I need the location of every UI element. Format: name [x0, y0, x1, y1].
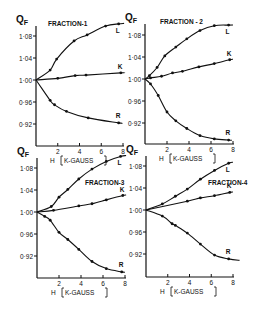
data-point	[49, 219, 52, 222]
data-point	[166, 111, 169, 114]
data-point	[85, 74, 88, 77]
y-tick-label: 1·04	[20, 187, 33, 194]
y-axis-label: QF	[126, 144, 139, 156]
data-point	[91, 168, 94, 171]
x-tick-label: 4	[187, 146, 191, 153]
data-point	[186, 200, 189, 203]
series-line	[36, 80, 122, 123]
data-point	[213, 194, 216, 197]
y-tick-label: 1·08	[129, 163, 142, 170]
x-tick-label: 2	[57, 280, 61, 287]
panel-title: FRACTION - 2	[160, 18, 203, 25]
data-point	[58, 196, 61, 199]
data-point	[55, 58, 58, 61]
y-tick-label: 1·04	[128, 54, 141, 61]
y-axis-label: QF	[16, 14, 29, 26]
data-point	[227, 24, 230, 27]
series-label: R	[116, 112, 121, 119]
y-axis-label: QF	[17, 146, 30, 158]
data-point	[66, 238, 69, 241]
series-label: K	[120, 186, 125, 193]
bracket-right	[214, 287, 216, 296]
series-line	[146, 192, 233, 210]
data-point	[149, 77, 152, 80]
x-axis-label-h: H	[50, 157, 55, 164]
data-point	[213, 254, 216, 257]
data-point	[160, 75, 163, 78]
series-r: R	[145, 79, 232, 141]
y-tick-label: 0·96	[19, 99, 32, 106]
series-line	[36, 23, 124, 80]
data-point	[105, 267, 108, 270]
panel-fraction-2: QF1·081·041·000·960·922468HK-GAUSSFRACTI…	[125, 12, 235, 163]
data-point	[163, 55, 166, 58]
data-point	[174, 119, 177, 122]
y-tick-label: 1·08	[19, 33, 32, 40]
data-point	[65, 110, 68, 113]
x-tick-label: 2	[166, 279, 170, 286]
data-point	[227, 139, 230, 142]
series-line	[145, 25, 233, 79]
data-point	[174, 224, 177, 227]
data-point	[104, 25, 107, 28]
data-point	[117, 23, 120, 26]
y-tick-label: 1·04	[129, 185, 142, 192]
y-tick-label: 1·00	[129, 207, 142, 214]
y-tick-label: 1·04	[19, 55, 32, 62]
figure-four-panel-chart: QF1·081·041·000·960·922468HK-GAUSSFRACTI…	[0, 0, 263, 312]
y-tick-label: 0·92	[19, 121, 32, 128]
data-point	[171, 72, 174, 75]
series-label: L	[226, 166, 230, 173]
y-tick-label: 0·96	[20, 231, 33, 238]
data-point	[49, 69, 52, 72]
panel-title: FRACTION-1	[48, 20, 88, 27]
panel-fraction-4: QF1·081·041·000·960·922468HK-GAUSSFRACTI…	[126, 144, 248, 296]
data-point	[199, 29, 202, 32]
series-r: R	[146, 210, 240, 260]
panel-fraction-3: QF1·081·041·000·960·922468HK-GAUSSFRACTI…	[17, 146, 127, 297]
bracket-left	[171, 287, 173, 296]
y-tick-label: 1·00	[128, 76, 141, 83]
series-label: K	[227, 50, 232, 57]
series-label: R	[226, 129, 231, 136]
x-tick-label: 6	[99, 148, 103, 155]
data-point	[186, 232, 189, 235]
data-point	[56, 77, 59, 80]
y-tick-label: 0·96	[129, 229, 142, 236]
data-point	[213, 24, 216, 27]
data-point	[121, 194, 124, 197]
x-axis-label-unit: K-GAUSS	[64, 157, 94, 164]
data-point	[86, 34, 89, 37]
series-label: L	[118, 159, 122, 166]
y-tick-label: 1·00	[19, 77, 32, 84]
series-line	[37, 195, 126, 212]
data-point	[49, 99, 52, 102]
data-point	[77, 178, 80, 181]
x-tick-label: 6	[209, 146, 213, 153]
panel-fraction-1: QF1·081·041·000·960·922468HK-GAUSSFRACTI…	[16, 14, 125, 165]
data-point	[228, 58, 231, 61]
data-point	[91, 202, 94, 205]
y-tick-label: 1·08	[20, 165, 33, 172]
series-k: K	[145, 50, 233, 80]
series-k: K	[37, 186, 126, 213]
bracket-left	[170, 154, 172, 163]
data-point	[185, 37, 188, 40]
data-point	[161, 203, 164, 206]
data-point	[119, 71, 122, 74]
data-point	[50, 205, 53, 208]
data-point	[156, 66, 159, 69]
x-tick-label: 2	[56, 148, 60, 155]
bracket-right	[213, 154, 215, 163]
data-point	[52, 209, 55, 212]
x-axis-label-unit: K-GAUSS	[65, 289, 95, 296]
data-point	[119, 155, 122, 158]
data-point	[161, 215, 164, 218]
series-l: L	[145, 24, 233, 79]
x-tick-label: 6	[209, 279, 213, 286]
x-tick-label: 8	[123, 280, 127, 287]
bracket-left	[61, 156, 63, 165]
data-point	[181, 70, 184, 73]
data-point	[227, 258, 230, 261]
series-r: R	[36, 80, 122, 124]
